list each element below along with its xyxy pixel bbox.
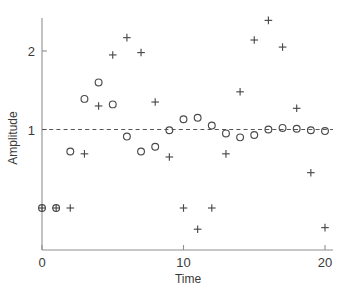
data-point-circle bbox=[307, 127, 314, 134]
data-point-cross bbox=[222, 150, 230, 158]
data-point-circle bbox=[138, 148, 145, 155]
data-point-circle bbox=[293, 125, 300, 132]
data-point-circle bbox=[166, 127, 173, 134]
x-axis-ticks bbox=[42, 245, 325, 250]
data-point-circle bbox=[67, 148, 74, 155]
x-axis-title: Time bbox=[175, 272, 202, 286]
data-point-circle bbox=[180, 116, 187, 123]
data-point-circle bbox=[251, 132, 258, 139]
data-point-circle bbox=[223, 130, 230, 137]
x-tick-label: 20 bbox=[318, 255, 332, 270]
data-point-circle bbox=[322, 128, 329, 135]
y-tick-label: 1 bbox=[28, 123, 35, 138]
data-point-circle bbox=[81, 95, 88, 102]
data-point-cross bbox=[180, 204, 188, 212]
data-point-cross bbox=[95, 102, 103, 110]
data-point-circle bbox=[194, 114, 201, 121]
x-tick-label: 0 bbox=[38, 255, 45, 270]
data-point-cross bbox=[293, 105, 301, 113]
data-point-cross bbox=[123, 34, 131, 42]
data-point-circle bbox=[124, 133, 131, 140]
y-tick-labels: 12 bbox=[28, 44, 35, 138]
data-point-cross bbox=[265, 17, 273, 25]
data-point-cross bbox=[166, 153, 174, 161]
y-axis-title: Amplitude bbox=[6, 111, 20, 165]
data-point-cross bbox=[250, 36, 258, 44]
data-point-circle bbox=[95, 79, 102, 86]
data-point-cross bbox=[236, 88, 244, 96]
data-point-cross bbox=[151, 98, 159, 106]
data-point-cross bbox=[137, 49, 145, 57]
x-tick-label: 10 bbox=[176, 255, 190, 270]
data-point-cross bbox=[67, 204, 75, 212]
data-point-circle bbox=[237, 134, 244, 141]
scatter-plot-figure: 12 01020 Time Amplitude bbox=[0, 0, 351, 292]
x-tick-labels: 01020 bbox=[38, 255, 332, 270]
data-point-cross bbox=[321, 224, 329, 232]
data-markers bbox=[38, 17, 329, 233]
data-point-circle bbox=[279, 125, 286, 132]
data-point-cross bbox=[109, 51, 117, 59]
data-point-cross bbox=[81, 150, 89, 158]
data-point-cross bbox=[208, 204, 216, 212]
data-point-cross bbox=[194, 225, 202, 233]
data-point-circle bbox=[152, 143, 159, 150]
data-point-circle bbox=[109, 101, 116, 108]
data-point-cross bbox=[307, 169, 315, 177]
y-tick-label: 2 bbox=[28, 44, 35, 59]
plot-canvas: 12 01020 Time Amplitude bbox=[0, 0, 351, 292]
data-point-circle bbox=[208, 122, 215, 129]
y-axis-ticks bbox=[42, 51, 47, 130]
data-point-cross bbox=[279, 43, 287, 51]
